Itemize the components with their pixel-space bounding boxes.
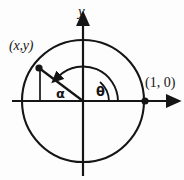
figure-canvas — [0, 0, 184, 180]
unit-circle-figure: y (x,y) (1, 0) α θ — [0, 0, 184, 180]
point-xy-marker — [35, 64, 42, 71]
y-axis-label: y — [78, 4, 85, 19]
angle-theta-label: θ — [96, 85, 105, 98]
point-xy-label: (x,y) — [9, 39, 33, 53]
point-one-zero-marker — [141, 97, 148, 104]
point-one-zero-label: (1, 0) — [145, 76, 175, 90]
angle-alpha-label: α — [56, 87, 65, 100]
